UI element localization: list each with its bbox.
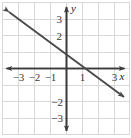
y-tick-label-2: 2 — [57, 30, 63, 42]
y-tick-label-3: 3 — [57, 13, 63, 25]
x-tick-label--1: −1 — [45, 71, 57, 83]
coordinate-graph-svg: −3 −2 −1 1 3 3 2 −2 −3 y x — [0, 0, 131, 138]
x-tick-label-3: 3 — [112, 71, 118, 83]
y-tick-label--2: −2 — [51, 96, 63, 108]
x-tick-label--2: −2 — [29, 71, 41, 83]
x-tick-label-1: 1 — [80, 71, 86, 83]
x-tick-label--3: −3 — [13, 71, 25, 83]
x-axis-name-label: x — [119, 70, 125, 82]
y-tick-label--3: −3 — [51, 112, 63, 124]
y-axis-name-label: y — [70, 2, 76, 14]
coordinate-graph-figure: −3 −2 −1 1 3 3 2 −2 −3 y x — [0, 0, 131, 138]
